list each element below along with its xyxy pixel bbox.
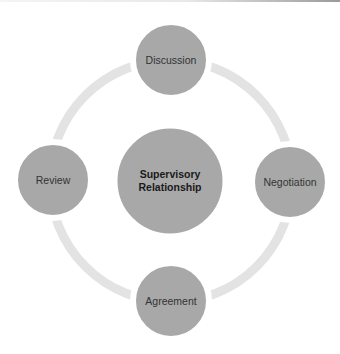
node-label-agreement: Agreement <box>145 295 196 307</box>
node-negotiation: Negotiation <box>252 144 328 220</box>
node-agreement: Agreement <box>133 263 209 339</box>
node-label-negotiation: Negotiation <box>263 176 316 188</box>
center-label-line1: Supervisory <box>140 168 201 180</box>
node-label-discussion: Discussion <box>146 54 197 66</box>
supervisory-cycle-diagram: Supervisory Relationship Discussion Nego… <box>0 0 340 354</box>
center-label-line2: Relationship <box>138 181 201 193</box>
node-discussion: Discussion <box>133 22 209 98</box>
node-review: Review <box>15 142 91 218</box>
center-node: Supervisory Relationship <box>115 126 225 236</box>
node-label-review: Review <box>36 174 71 186</box>
